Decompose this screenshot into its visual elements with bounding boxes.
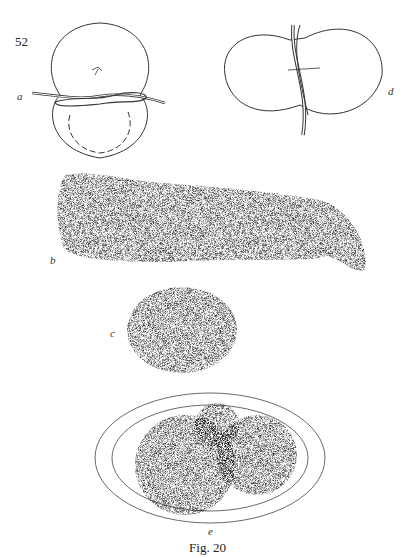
panel-label-b: b [50,254,56,266]
panel-c-drawing [127,287,237,373]
panel-e-drawing [95,393,325,523]
panel-d-drawing [224,25,382,135]
panel-label-e: e [208,525,213,537]
figure-illustration [0,0,415,558]
panel-label-d: d [388,85,394,97]
figure-caption: Fig. 20 [0,540,415,556]
panel-label-c: c [110,327,115,339]
panel-a-drawing [32,23,165,158]
panel-b-drawing [58,173,366,270]
panel-label-a: a [17,90,23,102]
